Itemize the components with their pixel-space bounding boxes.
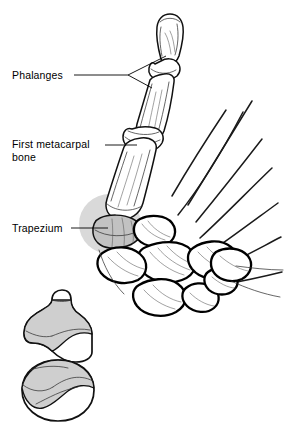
label-first-metacarpal-line1: First metacarpal <box>12 138 90 150</box>
label-phalanges-text: Phalanges <box>12 69 63 81</box>
inset-trapezium-surface <box>22 360 94 421</box>
label-trapezium-text: Trapezium <box>12 222 63 234</box>
anatomical-figure: Phalanges First metacarpal bone Trapeziu… <box>0 0 285 430</box>
label-first-metacarpal-line2: bone <box>12 151 36 163</box>
figure-canvas: Phalanges First metacarpal bone Trapeziu… <box>0 0 285 430</box>
distal-phalanx <box>157 14 184 65</box>
